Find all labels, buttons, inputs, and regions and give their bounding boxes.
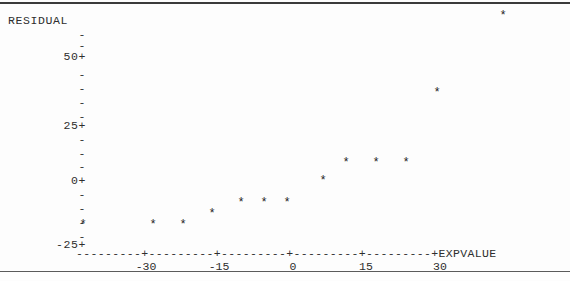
data-point: *: [283, 197, 290, 209]
x-axis-dashes: ---------+---------+---------+---------+…: [76, 247, 439, 260]
x-axis-line: ---------+---------+---------+---------+…: [76, 247, 497, 260]
data-point-group: *************: [0, 4, 570, 271]
character-plot-screenshot: RESIDUAL 50+25+0+-25+ ------------- ****…: [0, 0, 570, 281]
data-point: *: [372, 157, 379, 169]
data-point: *: [499, 10, 506, 22]
data-point: *: [433, 87, 440, 99]
x-axis-tick-label: -15: [209, 260, 230, 273]
data-point: *: [237, 197, 244, 209]
x-axis-tick-label: 0: [290, 260, 297, 273]
data-point: *: [79, 219, 86, 231]
data-point: *: [208, 208, 215, 220]
x-axis-tick-label: 15: [359, 260, 373, 273]
x-axis-title: EXPVALUE: [439, 247, 497, 260]
data-point: *: [149, 219, 156, 231]
x-axis-tick-label-group: -30-1501530: [0, 260, 570, 276]
x-axis-tick-label: 30: [433, 260, 447, 273]
data-point: *: [179, 219, 186, 231]
x-axis-tick-label: -30: [136, 260, 157, 273]
data-point: *: [342, 157, 349, 169]
data-point: *: [402, 157, 409, 169]
data-point: *: [260, 197, 267, 209]
data-point: *: [319, 175, 326, 187]
plot-area: RESIDUAL 50+25+0+-25+ ------------- ****…: [0, 4, 570, 271]
